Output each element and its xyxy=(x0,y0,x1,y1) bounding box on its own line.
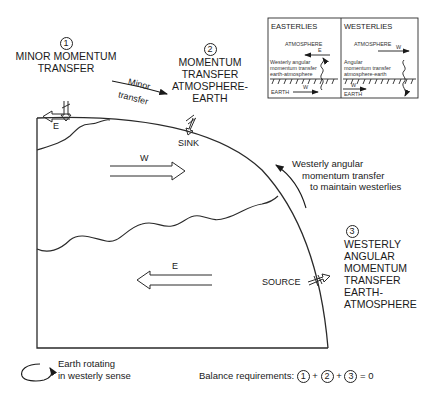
inset-westerlies-transfer: Angular momentum transfer atmosphere-ear… xyxy=(344,59,391,78)
polar-wind-label: E xyxy=(53,120,59,132)
marker-1: 1 xyxy=(58,36,74,50)
inset-westerlies-earth: EARTH xyxy=(344,91,362,97)
inset-easterlies-earth: EARTH xyxy=(271,89,289,95)
tropical-wind-label: E xyxy=(172,260,178,272)
source-label: SOURCE xyxy=(262,276,301,288)
earth-rotation-icon xyxy=(22,364,52,381)
source-arrow xyxy=(308,274,330,286)
sink-label: SINK xyxy=(178,137,199,149)
westerly-wind-label: W xyxy=(140,152,149,164)
westerly-wind-arrow xyxy=(110,162,185,180)
tropical-easterly-arrow xyxy=(137,271,212,289)
sink-arrow xyxy=(186,115,196,135)
marker-2: 2 xyxy=(202,42,218,56)
minor-transfer-label: MINOR MOMENTUM TRANSFER xyxy=(10,50,122,74)
balance-equation: Balance requirements: 1 + 2 + 3 = 0 xyxy=(199,370,374,383)
inset-westerlies-title: WESTERLIES xyxy=(344,21,392,33)
subtropical-wave xyxy=(37,196,278,251)
earth-atm-transfer-label: WESTERLY ANGULAR MOMENTUM TRANSFER EARTH… xyxy=(344,238,417,310)
inset-easterlies-earth-wind: W xyxy=(303,84,308,90)
marker-3: 3 xyxy=(344,224,360,238)
inset-westerlies-earth-wind: W xyxy=(351,82,356,88)
rotation-legend-text: Earth rotating in westerly sense xyxy=(58,358,131,382)
inset-easterlies-atm-wind: E xyxy=(318,47,322,53)
westerly-transfer-note: Westerly angular momentum transfer to ma… xyxy=(292,158,401,193)
inset-westerlies-atmosphere: ATMOSPHERE xyxy=(354,41,391,47)
inset-easterlies-title: EASTERLIES xyxy=(271,21,317,33)
inset-westerlies-atm-wind: W xyxy=(396,44,401,50)
earth-quadrant-outline xyxy=(37,117,328,348)
inset-easterlies-atmosphere: ATMOSPHERE xyxy=(285,41,322,47)
polar-front-wave xyxy=(37,120,110,150)
atm-earth-transfer-label: MOMENTUM TRANSFER ATMOSPHERE- EARTH xyxy=(168,56,252,104)
inset-easterlies-transfer: Westerly angular momentum transfer earth… xyxy=(270,59,317,78)
